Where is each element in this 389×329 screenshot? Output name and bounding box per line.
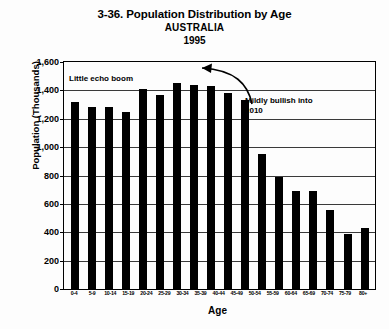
bar (275, 177, 283, 289)
x-axis-title: Age (60, 305, 375, 316)
bar (105, 107, 113, 289)
bar (326, 210, 334, 289)
bar-slot (151, 62, 168, 289)
y-axis-tick-label: 400 (44, 227, 59, 237)
x-axis-tick-label: 40-44 (210, 290, 228, 302)
x-axis-tick-label: 20-24 (137, 290, 155, 302)
chart-title: 3-36. Population Distribution by Age (0, 7, 389, 21)
bar (292, 191, 300, 289)
bar-slot (168, 62, 185, 289)
x-axis-tick-label: 65-69 (300, 290, 318, 302)
bar-slot (339, 62, 356, 289)
population-bar-chart: 3-36. Population Distribution by Age AUS… (0, 0, 389, 329)
annotation-little-echo-boom: Little echo boom (66, 74, 136, 84)
y-axis-tick-label: 1,200 (36, 114, 59, 124)
x-axis-tick-label: 5-9 (83, 290, 101, 302)
bar-slot (356, 62, 373, 289)
y-axis-tick-label: 600 (44, 199, 59, 209)
bar-slot (220, 62, 237, 289)
bar-slot (100, 62, 117, 289)
bar (139, 89, 147, 289)
chart-subtitle-country: AUSTRALIA (0, 21, 389, 34)
annotation-mildly-bullish: Mildly bullish into 2010 (245, 96, 327, 116)
plot-area: 02004006008001,0001,2001,4001,600 (63, 61, 376, 290)
bar (122, 112, 130, 289)
chart-subtitle-year: 1995 (0, 34, 389, 47)
x-axis-tick-label: 15-19 (119, 290, 137, 302)
x-axis-tick-label: 25-29 (155, 290, 173, 302)
bar-slot (134, 62, 151, 289)
x-axis-tick-label: 45-49 (228, 290, 246, 302)
bar (258, 154, 266, 289)
y-axis-tick-label: 0 (54, 284, 59, 294)
y-axis-tick-label: 1,600 (36, 57, 59, 67)
x-axis-tick-label: 80+ (354, 290, 372, 302)
bar (190, 85, 198, 289)
x-axis-tick-label: 30-34 (173, 290, 191, 302)
x-axis-tick-label: 10-14 (101, 290, 119, 302)
x-axis-tick-labels: 0-45-910-1415-1920-2425-2930-3435-3940-4… (63, 290, 374, 302)
x-axis-tick-label: 55-59 (264, 290, 282, 302)
bar (309, 191, 317, 289)
y-axis-tick-label: 1,400 (36, 85, 59, 95)
bar-slot (83, 62, 100, 289)
x-axis-tick-label: 70-74 (318, 290, 336, 302)
bar (207, 86, 215, 289)
bar-slot (203, 62, 220, 289)
bar-slot (117, 62, 134, 289)
y-axis-tick-label: 200 (44, 256, 59, 266)
y-axis-tick-label: 1,000 (36, 142, 59, 152)
bar-slot (185, 62, 202, 289)
chart-title-block: 3-36. Population Distribution by Age AUS… (0, 7, 389, 47)
bar (361, 228, 369, 289)
bar (173, 83, 181, 289)
bar (241, 100, 249, 289)
bar (344, 234, 352, 289)
x-axis-tick-label: 60-64 (282, 290, 300, 302)
x-axis-tick-label: 75-79 (336, 290, 354, 302)
bar (224, 93, 232, 289)
y-axis-tick-label: 800 (44, 171, 59, 181)
x-axis-tick-label: 50-54 (246, 290, 264, 302)
x-axis-tick-label: 0-4 (65, 290, 83, 302)
bar (156, 95, 164, 289)
x-axis-tick-label: 35-39 (191, 290, 209, 302)
bar (71, 102, 79, 289)
bar-slot (66, 62, 83, 289)
bar-series (64, 62, 375, 289)
bar (88, 107, 96, 289)
